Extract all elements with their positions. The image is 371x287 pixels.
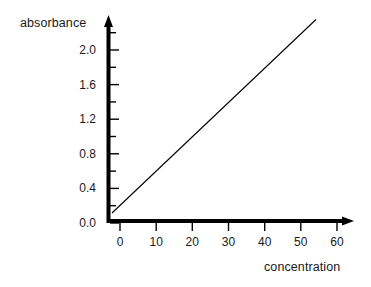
x-tick-label-2: 20 bbox=[177, 236, 207, 248]
chart-figure: absorbance concentration 0.0 0.4 0.8 1.2… bbox=[0, 0, 371, 287]
y-axis-arrow-icon bbox=[104, 15, 113, 27]
y-tick-label-2: 0.8 bbox=[62, 148, 96, 160]
x-axis-label: concentration bbox=[264, 261, 340, 274]
y-tick-label-3: 1.2 bbox=[62, 113, 96, 125]
y-tick-label-0: 0.0 bbox=[62, 217, 96, 229]
x-tick-label-5: 50 bbox=[286, 236, 316, 248]
y-tick-label-1: 0.4 bbox=[62, 182, 96, 194]
x-tick-label-1: 10 bbox=[141, 236, 171, 248]
x-tick-label-3: 30 bbox=[214, 236, 244, 248]
x-axis-ticks bbox=[120, 223, 337, 231]
data-series-calibration-line bbox=[112, 20, 316, 214]
y-axis-label: absorbance bbox=[20, 17, 86, 30]
x-axis-arrow-icon bbox=[342, 217, 354, 226]
x-tick-label-6: 60 bbox=[322, 236, 352, 248]
x-tick-label-0: 0 bbox=[105, 236, 135, 248]
x-tick-label-4: 40 bbox=[250, 236, 280, 248]
y-tick-label-4: 1.6 bbox=[62, 79, 96, 91]
y-tick-label-5: 2.0 bbox=[62, 44, 96, 56]
